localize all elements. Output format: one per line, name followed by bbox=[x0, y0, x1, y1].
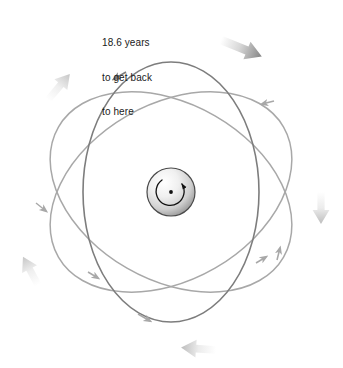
precession-arrow-right-shape bbox=[313, 192, 330, 224]
precession-arrow-top-left bbox=[42, 69, 77, 106]
precession-arrow-left bbox=[16, 253, 46, 289]
precession-arrow-bottom-shape bbox=[180, 339, 216, 359]
orbit-ring-2-arrowhead bbox=[88, 272, 98, 278]
orbit-arrowhead-right-lower bbox=[277, 248, 280, 260]
precession-arrow-right bbox=[313, 192, 330, 224]
diagram-canvas: 18.6 years to get back to here bbox=[0, 0, 343, 368]
orbit-ring-3-arrowhead bbox=[256, 257, 266, 263]
precession-arrow-top-left-shape bbox=[42, 69, 77, 106]
period-callout-line3: to here bbox=[102, 106, 152, 118]
precession-arrow-top-right-shape bbox=[217, 31, 265, 65]
orbit-arrowhead-left bbox=[36, 203, 46, 211]
pole-dot-icon bbox=[169, 190, 173, 194]
precession-arrow-top-right bbox=[217, 31, 265, 65]
period-callout-line2: to get back bbox=[102, 72, 152, 84]
period-callout: 18.6 years to get back to here bbox=[102, 14, 152, 141]
precession-arrow-bottom bbox=[180, 339, 216, 359]
precession-arrow-left-shape bbox=[16, 253, 46, 289]
orbit-illustration bbox=[0, 0, 343, 368]
period-callout-line1: 18.6 years bbox=[102, 37, 152, 49]
orbit-arrowhead-right-upper bbox=[262, 101, 274, 104]
earth-sphere bbox=[147, 168, 195, 216]
